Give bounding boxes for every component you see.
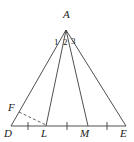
vertex-label-e: E [120, 128, 127, 139]
geometry-canvas [0, 0, 134, 142]
vertex-label-m: M [80, 128, 89, 139]
cevian-AM [66, 30, 88, 126]
vertex-label-l: L [41, 128, 47, 139]
angle-label-1: 1 [54, 38, 59, 47]
geometry-figure: A D L M E F 1 2 3 [0, 0, 134, 142]
vertex-label-d: D [4, 128, 12, 139]
vertex-label-a: A [63, 9, 70, 20]
vertex-label-f: F [8, 102, 15, 113]
angle-label-3: 3 [71, 37, 76, 46]
dashed-FL [19, 112, 46, 125]
angle-label-2: 2 [63, 38, 68, 47]
